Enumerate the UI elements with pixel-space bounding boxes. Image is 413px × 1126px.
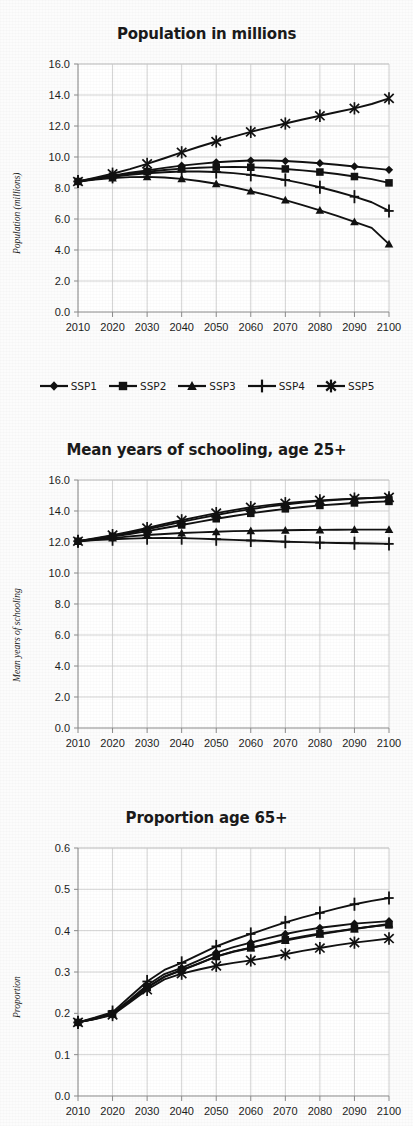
svg-text:2010: 2010 [66, 737, 90, 749]
plot-svg-schooling: 0.02.04.06.08.010.012.014.016.0201020202… [0, 460, 413, 760]
svg-text:0.0: 0.0 [55, 722, 70, 734]
legend-item-ssp1[interactable]: SSP1 [39, 378, 97, 394]
svg-text:2080: 2080 [308, 737, 332, 749]
svg-text:10.0: 10.0 [49, 567, 70, 579]
svg-text:0.1: 0.1 [55, 1049, 70, 1061]
svg-text:2070: 2070 [273, 1105, 297, 1117]
triangle-icon [177, 378, 207, 394]
svg-text:0.6: 0.6 [55, 842, 70, 854]
svg-text:2010: 2010 [66, 1105, 90, 1117]
svg-text:2020: 2020 [100, 737, 124, 749]
svg-text:2050: 2050 [204, 737, 228, 749]
plot-area-proportion: Proportion 0.00.10.20.30.40.50.620102020… [0, 828, 413, 1126]
svg-text:0.5: 0.5 [55, 883, 70, 895]
svg-text:2070: 2070 [273, 737, 297, 749]
svg-text:2070: 2070 [273, 321, 297, 333]
svg-text:2060: 2060 [239, 321, 263, 333]
svg-text:4.0: 4.0 [55, 660, 70, 672]
svg-text:0.0: 0.0 [55, 306, 70, 318]
plus-icon [247, 378, 277, 394]
svg-text:8.0: 8.0 [55, 182, 70, 194]
svg-text:0.4: 0.4 [55, 925, 70, 937]
svg-text:2030: 2030 [135, 737, 159, 749]
svg-text:10.0: 10.0 [49, 151, 70, 163]
svg-text:2.0: 2.0 [55, 275, 70, 287]
diamond-icon [39, 378, 69, 394]
plot-area-population: Population (millions) 0.02.04.06.08.010.… [0, 44, 413, 344]
chart-panel-schooling: Mean years of schooling, age 25+ Mean ye… [0, 440, 413, 760]
legend-label-ssp3: SSP3 [209, 380, 235, 392]
svg-text:6.0: 6.0 [55, 629, 70, 641]
svg-text:2040: 2040 [169, 1105, 193, 1117]
plot-svg-proportion: 0.00.10.20.30.40.50.62010202020302040205… [0, 828, 413, 1126]
legend-label-ssp5: SSP5 [348, 380, 374, 392]
y-axis-label-schooling: Mean years of schooling [12, 588, 22, 682]
chart-title-population: Population in millions [0, 24, 413, 44]
svg-text:2050: 2050 [204, 1105, 228, 1117]
figure-page: Population in millions Population (milli… [0, 0, 413, 1126]
legend-label-ssp4: SSP4 [279, 380, 305, 392]
svg-text:2090: 2090 [342, 1105, 366, 1117]
svg-text:2020: 2020 [100, 1105, 124, 1117]
legend-ssp: SSP1 SSP2 SSP3 SSP4 [0, 378, 413, 394]
svg-text:4.0: 4.0 [55, 244, 70, 256]
svg-text:2090: 2090 [342, 737, 366, 749]
svg-text:2030: 2030 [135, 1105, 159, 1117]
y-axis-label-proportion: Proportion [12, 976, 22, 1018]
svg-text:16.0: 16.0 [49, 474, 70, 486]
asterisk-icon [316, 378, 346, 394]
svg-text:16.0: 16.0 [49, 58, 70, 70]
svg-text:6.0: 6.0 [55, 213, 70, 225]
y-axis-label-population: Population (millions) [12, 172, 22, 254]
svg-text:2100: 2100 [377, 737, 401, 749]
svg-text:2090: 2090 [342, 321, 366, 333]
svg-text:2050: 2050 [204, 321, 228, 333]
svg-text:2080: 2080 [308, 1105, 332, 1117]
svg-text:14.0: 14.0 [49, 89, 70, 101]
svg-text:2100: 2100 [377, 321, 401, 333]
legend-item-ssp5[interactable]: SSP5 [316, 378, 374, 394]
plot-svg-population: 0.02.04.06.08.010.012.014.016.0201020202… [0, 44, 413, 344]
legend-label-ssp1: SSP1 [71, 380, 97, 392]
svg-text:0.2: 0.2 [55, 1007, 70, 1019]
plot-area-schooling: Mean years of schooling 0.02.04.06.08.01… [0, 460, 413, 760]
svg-text:2020: 2020 [100, 321, 124, 333]
chart-title-schooling: Mean years of schooling, age 25+ [0, 440, 413, 460]
svg-text:8.0: 8.0 [55, 598, 70, 610]
svg-text:12.0: 12.0 [49, 536, 70, 548]
svg-text:0.3: 0.3 [55, 966, 70, 978]
svg-text:2100: 2100 [377, 1105, 401, 1117]
svg-text:2010: 2010 [66, 321, 90, 333]
legend-item-ssp4[interactable]: SSP4 [247, 378, 305, 394]
square-icon [108, 378, 138, 394]
svg-text:2060: 2060 [239, 1105, 263, 1117]
svg-text:0.0: 0.0 [55, 1090, 70, 1102]
svg-text:2030: 2030 [135, 321, 159, 333]
legend-item-ssp3[interactable]: SSP3 [177, 378, 235, 394]
chart-panel-population: Population in millions Population (milli… [0, 24, 413, 344]
svg-text:2060: 2060 [239, 737, 263, 749]
chart-title-proportion: Proportion age 65+ [0, 808, 413, 828]
legend-item-ssp2[interactable]: SSP2 [108, 378, 166, 394]
svg-text:14.0: 14.0 [49, 505, 70, 517]
svg-text:2.0: 2.0 [55, 691, 70, 703]
svg-text:12.0: 12.0 [49, 120, 70, 132]
legend-label-ssp2: SSP2 [140, 380, 166, 392]
chart-panel-proportion: Proportion age 65+ Proportion 0.00.10.20… [0, 808, 413, 1126]
svg-text:2040: 2040 [169, 321, 193, 333]
svg-text:2080: 2080 [308, 321, 332, 333]
svg-text:2040: 2040 [169, 737, 193, 749]
